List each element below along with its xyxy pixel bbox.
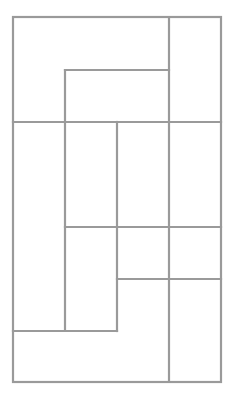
partition-lines (13, 17, 221, 382)
rectangle-dissection-diagram (0, 0, 234, 398)
